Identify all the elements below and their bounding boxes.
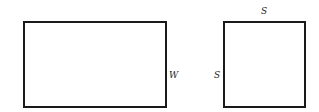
- square-top-side-label: S: [261, 7, 267, 16]
- square-shape: [223, 21, 306, 108]
- rectangle-shape: [23, 21, 167, 108]
- rectangle-width-label: W: [169, 71, 178, 80]
- square-left-side-label: S: [214, 71, 220, 80]
